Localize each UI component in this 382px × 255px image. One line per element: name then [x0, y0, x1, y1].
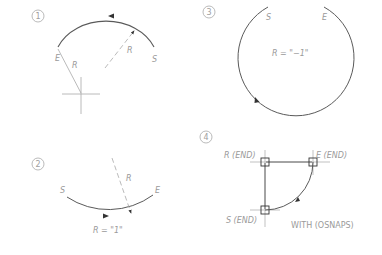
label-s-1: S	[152, 55, 157, 64]
label-s-3: S	[266, 13, 271, 22]
panel-1: 1 E R R S	[32, 10, 157, 114]
arc-1	[58, 21, 154, 47]
panel-4: 4 R (END) E (END) S (END) WITH (OSNAPS)	[200, 131, 354, 230]
panel-number-1: 1	[32, 10, 44, 22]
panel-3: 3 S E R = "−1"	[203, 6, 354, 116]
caption-2: R = "1"	[93, 226, 123, 235]
caption-4: WITH (OSNAPS)	[291, 221, 354, 230]
label-r-solid: R	[72, 61, 78, 70]
label-r-end: R (END)	[224, 151, 256, 160]
arc-4	[265, 162, 313, 210]
svg-text:4: 4	[203, 133, 208, 142]
arc-arrow-3	[255, 97, 260, 103]
svg-text:1: 1	[35, 12, 40, 21]
label-r-2: R	[126, 174, 132, 183]
panel-number-2: 2	[32, 158, 44, 170]
label-e-1: E	[55, 54, 61, 63]
radius-line-solid	[58, 49, 81, 93]
panel-number-4: 4	[200, 131, 212, 143]
label-s-2: S	[60, 186, 65, 195]
label-e-end: E (END)	[316, 151, 347, 160]
arc-diagram: 1 E R R S 3 S E R = "−1" 2 S E R	[0, 0, 382, 255]
panel-number-3: 3	[203, 6, 215, 18]
arc-arrow-2	[103, 214, 109, 219]
radius-line-dashed-2	[112, 158, 131, 213]
label-s-end: S (END)	[226, 216, 257, 225]
svg-text:2: 2	[35, 160, 40, 169]
label-e-3: E	[322, 13, 328, 22]
label-r-dashed: R	[127, 46, 133, 55]
panel-2: 2 S E R R = "1"	[32, 158, 161, 235]
caption-3: R = "−1"	[272, 49, 309, 58]
arc-arrow-1	[108, 14, 114, 19]
arc-2	[67, 195, 153, 210]
svg-text:3: 3	[206, 8, 211, 17]
label-e-2: E	[155, 186, 161, 195]
